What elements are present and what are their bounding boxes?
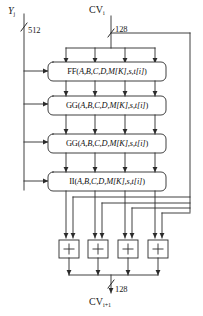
cv-in-label: CVi [89, 5, 105, 16]
lane-arrows-ff-to-gg1 [66, 81, 155, 96]
round-ff-label: FF(A,B,C,D,M[K],s,t[i]) [48, 67, 166, 76]
cv-out-subscript: i+1 [103, 301, 111, 308]
message-bus-line [21, 14, 27, 190]
cv-out-bus-line [69, 275, 158, 293]
lane-arrows-gg1-to-gg2 [66, 115, 155, 134]
round-ff-fn: FF [67, 67, 76, 76]
round-gg2-args: A,B,C,D,M[K],s,t[i] [80, 139, 145, 148]
adder-box-outlines [59, 240, 168, 258]
round-gg2-fn: GG [66, 139, 78, 148]
cv-out-symbol: CV [89, 296, 103, 307]
round-gg1-args: A,B,C,D,M[K],s,t[i] [80, 101, 145, 110]
cv-out-bus-width-label: 128 [115, 285, 127, 294]
round-gg1-fn: GG [66, 101, 78, 110]
message-bus-taps [24, 71, 48, 181]
cv-in-symbol: CV [89, 4, 103, 15]
cv-in-subscript: i [103, 9, 105, 16]
cv-in-bus-width-label: 128 [115, 25, 127, 34]
adder-output-arrows [69, 258, 158, 275]
cv-in-fanout-arrows [66, 48, 155, 63]
lane-arrows-gg2-to-ii [66, 153, 155, 172]
message-block-subscript: j [14, 10, 16, 17]
round-ii-fn: II [69, 177, 74, 186]
round-gg2-label: GG(A,B,C,D,M[K],s,t[i]) [48, 139, 166, 148]
cv-feedback-bus [73, 197, 190, 238]
message-bus-width-label: 512 [28, 26, 40, 35]
round-ii-label: II(A,B,C,D,M[K],s,t[i]) [48, 177, 166, 186]
lane-arrows-ii-to-adders [66, 191, 155, 238]
round-ii-args: A,B,C,D,M[K],s,t[i] [77, 177, 142, 186]
round-gg1-label: GG(A,B,C,D,M[K],s,t[i]) [48, 101, 166, 110]
diagram-line-layer [0, 0, 203, 316]
round-ff-args: A,B,C,D,M[K],s,t[i] [79, 67, 144, 76]
cv-out-label: CVi+1 [89, 297, 111, 308]
md5-round-diagram: Yj 512 CVi 128 FF(A,B,C,D,M[K],s,t[i]) G… [0, 0, 203, 316]
message-block-label: Yj [8, 6, 15, 17]
